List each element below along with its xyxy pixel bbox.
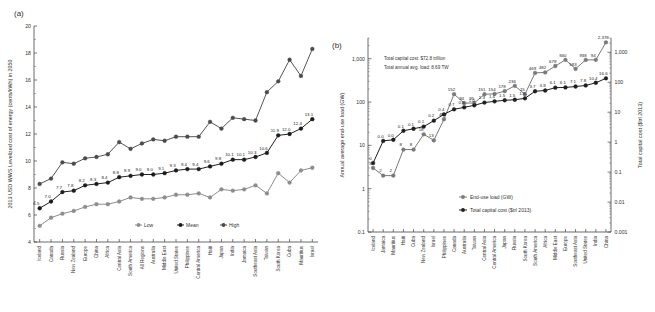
data-label: 13.1 xyxy=(305,112,314,117)
data-point xyxy=(574,67,578,71)
x-axis-category-label: United States xyxy=(174,245,179,273)
data-point xyxy=(72,209,76,213)
data-point xyxy=(242,117,246,121)
series-line-high xyxy=(40,49,313,184)
data-label: 12.0 xyxy=(282,127,291,132)
data-point xyxy=(117,175,121,179)
data-point xyxy=(310,47,314,51)
data-point xyxy=(83,183,87,187)
x-axis-category-label: Australia xyxy=(151,246,156,264)
y2-axis-title: Total capital cost ($trl 2013) xyxy=(637,102,643,168)
data-point xyxy=(523,96,527,100)
data-point xyxy=(242,158,246,162)
legend-label: High xyxy=(229,222,240,228)
data-label: 0.0 xyxy=(378,134,385,139)
data-point xyxy=(310,166,314,170)
data-label: 8 xyxy=(400,142,403,147)
data-point xyxy=(452,92,456,96)
data-point xyxy=(254,183,258,187)
y-tick-label: 100 xyxy=(356,99,365,105)
data-point xyxy=(594,58,598,62)
legend-label: Mean xyxy=(186,222,199,228)
data-label: 236 xyxy=(509,79,517,84)
data-point xyxy=(220,162,224,166)
data-label: 9.3 xyxy=(170,163,177,168)
data-point xyxy=(254,155,258,159)
x-axis-category-label: Central America xyxy=(196,246,201,279)
x-axis-category-label: Cuba xyxy=(411,236,416,247)
data-label: 6.1 xyxy=(560,80,567,85)
data-point xyxy=(276,171,280,175)
data-point xyxy=(61,160,65,164)
data-label: 1.3 xyxy=(479,95,486,100)
data-point xyxy=(83,205,87,209)
x-axis-category-label: Central Asia xyxy=(482,236,487,261)
x-axis-category-label: Japan xyxy=(502,236,507,249)
y-axis-title: 2013 USD WWS Levelized cost of energy (c… xyxy=(7,59,13,208)
data-point xyxy=(543,89,547,93)
x-axis-category-label: Russia xyxy=(60,246,65,260)
data-label: 3.7 xyxy=(529,84,536,89)
data-point xyxy=(140,173,144,177)
x-axis-category-label: Central America xyxy=(492,236,497,269)
data-point xyxy=(49,177,53,181)
data-label: 13 xyxy=(429,133,434,138)
data-point xyxy=(371,166,375,170)
legend-label: Low xyxy=(144,222,154,228)
data-point xyxy=(513,98,517,102)
data-point xyxy=(242,187,246,191)
data-point xyxy=(174,193,178,197)
data-point xyxy=(129,147,133,151)
data-point xyxy=(38,224,42,228)
data-point xyxy=(483,101,487,105)
x-axis-category-label: Haiti xyxy=(208,246,213,255)
data-label: 8 xyxy=(410,142,413,147)
data-point xyxy=(197,135,201,139)
x-axis-category-label: Iceland xyxy=(371,236,376,251)
data-point xyxy=(140,197,144,201)
data-point xyxy=(185,135,189,139)
data-label: 7.8 xyxy=(67,183,74,188)
x-axis-category-label: Canada xyxy=(49,246,54,263)
data-label: 7.0 xyxy=(45,194,52,199)
data-point xyxy=(288,58,292,62)
data-label: 6.5 xyxy=(33,201,40,206)
data-point xyxy=(38,182,42,186)
data-point xyxy=(564,58,568,62)
data-label: 0.1 xyxy=(408,122,415,127)
data-label: 0.0 xyxy=(388,133,395,138)
data-point xyxy=(151,138,155,142)
data-label: 678 xyxy=(549,59,557,64)
data-label: 7.1 xyxy=(570,79,577,84)
y-tick-label: 12 xyxy=(25,131,31,137)
data-label: 0.1 xyxy=(418,119,425,124)
data-point xyxy=(83,156,87,160)
x-axis-category-label: Philippines xyxy=(442,235,447,258)
x-axis-category-label: South Korea xyxy=(523,236,528,262)
data-label: 8.9 xyxy=(124,168,131,173)
data-point xyxy=(299,169,303,173)
data-label: 1.4 xyxy=(489,94,496,99)
data-point xyxy=(95,202,99,206)
y-tick-label: 20 xyxy=(25,23,31,29)
x-axis-category-label: New Zealand xyxy=(421,236,426,264)
y2-tick-label: 1 xyxy=(615,139,618,145)
x-axis-category-label: Europe xyxy=(563,236,568,251)
data-label: 2 xyxy=(389,168,392,173)
data-label: 10.1 xyxy=(225,152,234,157)
data-point xyxy=(276,79,280,83)
data-point xyxy=(38,206,42,210)
x-axis-category-label: Middle East xyxy=(162,245,167,270)
legend-label: End-use load (GW) xyxy=(470,194,513,200)
y2-tick-label: 1,000 xyxy=(615,49,628,55)
data-point xyxy=(288,181,292,185)
data-point xyxy=(381,139,385,143)
data-point xyxy=(129,174,133,178)
data-label: 10.1 xyxy=(236,152,245,157)
data-point xyxy=(594,81,598,85)
data-point xyxy=(151,173,155,177)
x-axis-category-label: India xyxy=(230,246,235,256)
data-label: 8.8 xyxy=(113,170,120,175)
x-axis-category-label: Africa xyxy=(105,246,110,258)
data-point xyxy=(49,200,53,204)
